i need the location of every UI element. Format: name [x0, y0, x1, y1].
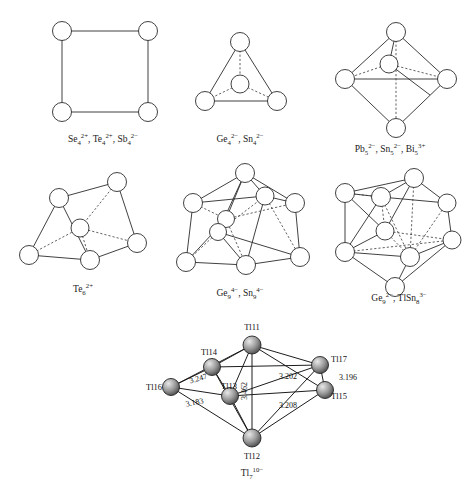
atom-vertex: [210, 224, 227, 241]
atom-vertex: [336, 184, 355, 203]
atom-vertex: [177, 253, 196, 272]
atom-vertex: [108, 173, 127, 192]
structure-tricapped-trigonal-prism: Ge92−, TlSn83−: [336, 169, 462, 305]
atom-vertex: [50, 189, 69, 208]
atom-tl16: [163, 379, 180, 396]
distance-3-183: 3.183: [185, 396, 204, 409]
atom-vertex: [443, 231, 461, 249]
distance-3-462: 3.462: [240, 382, 249, 400]
atom-vertex: [286, 194, 305, 213]
atom-vertex: [387, 119, 406, 138]
msa-bonds: [186, 173, 300, 265]
distance-3-247: 3.247: [188, 372, 208, 386]
atom-vertex: [380, 55, 398, 73]
atom-vertex: [438, 70, 457, 89]
ttp-bonds: [345, 178, 452, 287]
atom-tl12: [243, 429, 261, 447]
caption-tl7: Tl710−: [241, 466, 264, 479]
atom-vertex: [438, 194, 456, 212]
caption-trigonal-bipyramid: Pb52−, Sn52−, Bi53+: [355, 142, 426, 155]
atom-tl17: [312, 357, 329, 374]
atom-vertex: [81, 251, 100, 270]
label-tl15: Tl15: [331, 391, 347, 401]
structure-tl7: Tl11 Tl14 Tl16 Tl13 Tl12 Tl17 Tl15 3.247…: [146, 322, 357, 480]
atom-vertex: [20, 246, 39, 265]
atom-vertex: [291, 248, 310, 267]
atom-vertex: [196, 92, 215, 111]
atom-vertex: [405, 169, 424, 188]
label-tl14: Tl14: [201, 347, 218, 357]
tbp-bonds: [345, 32, 447, 128]
distance-3-196: 3.196: [339, 373, 357, 382]
atom-vertex: [268, 92, 287, 111]
square-bonds: [62, 31, 148, 112]
atom-vertex: [139, 22, 158, 41]
atom-vertex: [336, 243, 355, 262]
structure-monocapped-square-antiprism: Ge94−, Sn94−: [177, 164, 310, 300]
caption-tetrahedron: Ge42−, Sn42−: [216, 132, 263, 145]
zintl-cluster-figure: Se42+, Te42+, Sb42− Ge42−, Sn42−: [0, 0, 470, 480]
distance-3-208: 3.208: [279, 401, 297, 410]
structure-tetrahedron: Ge42−, Sn42−: [196, 33, 287, 146]
atom-vertex: [184, 194, 203, 213]
atom-vertex: [256, 187, 274, 205]
structure-trigonal-bipyramid: Pb52−, Sn52−, Bi53+: [336, 23, 457, 156]
label-tl17: Tl17: [331, 354, 347, 364]
caption-tricapped-trigonal-prism: Ge92−, TlSn83−: [371, 291, 427, 304]
atom-vertex: [237, 256, 256, 275]
distance-3-202: 3.202: [279, 372, 297, 381]
caption-square: Se42+, Te42+, Sb42−: [68, 132, 138, 145]
atom-vertex: [53, 22, 72, 41]
atom-vertex: [231, 75, 249, 93]
atom-vertex: [128, 234, 147, 253]
atom-vertex: [376, 222, 394, 240]
label-tl12: Tl12: [244, 451, 260, 461]
atom-vertex: [401, 248, 420, 267]
atom-vertex: [139, 103, 158, 122]
structure-square: Se42+, Te42+, Sb42−: [53, 22, 158, 146]
label-tl11: Tl11: [244, 322, 260, 332]
caption-monocapped-square-antiprism: Ge94−, Sn94−: [216, 286, 263, 299]
atom-vertex: [372, 188, 391, 207]
atom-tl11: [243, 336, 261, 354]
structure-trigonal-prism: Te62+: [20, 173, 147, 296]
atom-vertex: [387, 23, 406, 42]
atom-vertex: [231, 33, 250, 52]
atom-vertex: [53, 103, 72, 122]
caption-trigonal-prism: Te62+: [73, 282, 93, 295]
atom-vertex: [71, 219, 89, 237]
label-tl13: Tl13: [221, 381, 237, 391]
label-tl16: Tl16: [146, 382, 162, 392]
atom-vertex: [336, 70, 355, 89]
atom-vertex: [236, 164, 255, 183]
